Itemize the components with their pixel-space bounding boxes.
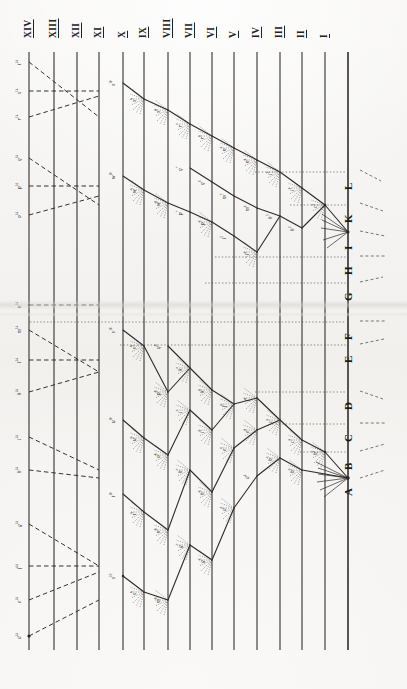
node-siglum: e14 [16,597,22,603]
node-siglum: s14 [16,89,22,94]
node-siglum: q6 [199,181,205,185]
node-siglum: q14 [16,155,22,161]
node-siglum: t10 [110,492,116,497]
node-siglum: k14 [16,389,22,395]
node-siglum: g6 [199,559,205,563]
node-siglum: l4 [244,252,250,255]
node-siglum: q8 [155,345,161,349]
node-siglum: n4 [244,159,250,163]
node-siglum: b2 [289,469,295,473]
node-siglum: r7 [177,123,183,127]
node-siglum: r14 [16,115,22,120]
node-siglum: i14 [16,435,22,440]
node-siglum: t14 [16,60,22,65]
node-siglum: e5 [221,447,227,451]
node-siglum: n14 [16,302,22,308]
node-siglum: p6 [199,221,205,225]
node-siglum: w9 [131,188,137,193]
node-siglum: r6 [199,135,205,139]
node-siglum: b3 [267,457,273,461]
node-siglum: l5 [221,236,227,239]
node-siglum: i3 [267,172,273,175]
node-siglum: d14 [16,633,22,639]
node-siglum: v10 [110,327,116,333]
node-siglum: g14 [16,521,22,527]
node-siglum: c3 [267,419,273,423]
node-siglum: p7 [177,211,183,215]
pedigree-plate: XIVXIIIXIIXIXIXVIIIVIIVIVIVIIIIII LKIHGF… [0,0,407,689]
node-siglum: h6 [199,491,205,495]
node-siglum: d4 [244,475,250,479]
node-siglum: h2 [289,227,295,231]
node-siglum: h7 [177,469,183,473]
node-siglum: o8 [155,454,161,458]
node-siglum: c2 [289,439,295,443]
node-siglum: g7 [177,544,183,548]
node-siglum: q7 [177,167,183,171]
node-siglum: d5 [221,507,227,511]
node-siglum: i2 [289,188,295,191]
node-sigla: t14s14r14q14p14o14n14m14l14k14i14h14g14f… [0,0,407,689]
node-siglum: i7 [177,410,183,413]
node-siglum: l14 [16,358,22,363]
node-siglum: k7 [177,367,183,371]
node-siglum: v9 [131,345,137,349]
node-siglum: w8 [155,201,161,206]
node-siglum: x10 [110,80,116,86]
node-siglum: u10 [110,417,116,423]
node-siglum: f14 [16,564,22,569]
node-siglum: m8 [155,597,161,602]
node-siglum: h3 [267,215,273,219]
node-siglum: n5 [221,147,227,151]
node-siglum: e4 [244,429,250,433]
node-siglum: p14 [16,183,22,189]
node-siglum: b1 [312,451,318,455]
node-siglum: m5 [221,193,227,198]
node-siglum: x8 [155,109,161,113]
node-siglum: s9 [131,591,137,595]
node-siglum: x9 [131,98,137,102]
node-siglum: w10 [110,172,116,179]
node-siglum: f4 [244,398,250,401]
node-siglum: k6 [199,389,205,393]
node-siglum: n8 [155,529,161,533]
node-siglum: h14 [16,467,22,473]
node-siglum: m14 [16,326,22,333]
node-siglum: f5 [221,404,227,407]
node-siglum: c1 [312,204,318,208]
node-siglum: i6 [199,430,205,433]
node-siglum: o14 [16,212,22,218]
node-siglum: p8 [155,391,161,395]
node-siglum: s10 [110,574,116,579]
node-siglum: u9 [131,437,137,441]
node-siglum: m4 [244,205,250,210]
node-siglum: t9 [131,512,137,515]
